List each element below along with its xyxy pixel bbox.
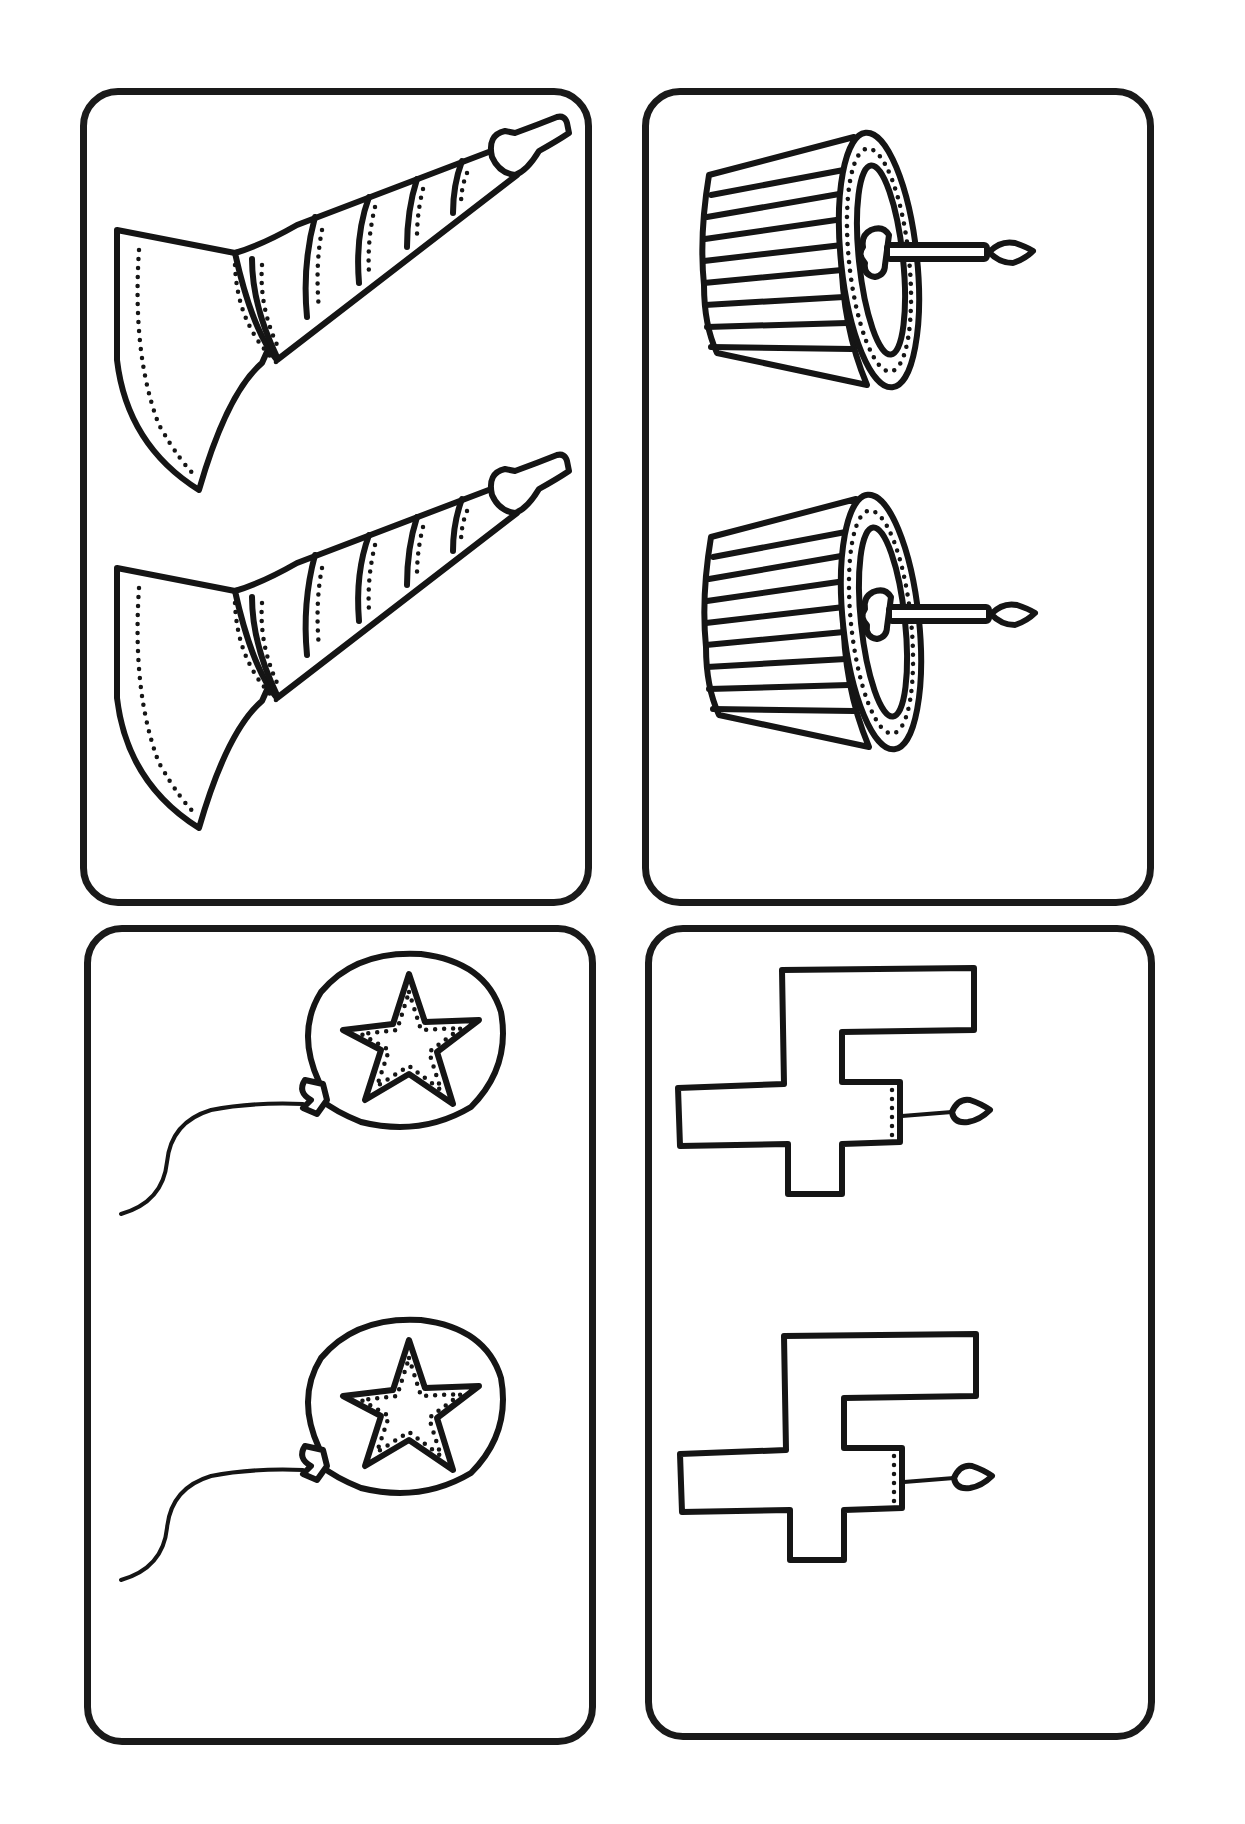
cupcake-icon [704,491,1035,754]
card-number-four-candles[interactable]: number 4 candle [645,925,1155,1740]
party-horn-icon [117,117,569,490]
cupcake-icon [702,129,1033,392]
card-cupcakes[interactable]: cupcake with candle [642,88,1154,906]
number-four-candle-icon [680,1334,992,1560]
star-balloon-icon [121,1320,503,1580]
star-balloon-icon [121,954,503,1214]
card-star-balloons[interactable]: star balloon [84,925,596,1745]
party-horn-icon [117,455,569,828]
number-four-candle-icon [678,968,990,1194]
card-party-horns[interactable]: party horn [80,88,592,906]
